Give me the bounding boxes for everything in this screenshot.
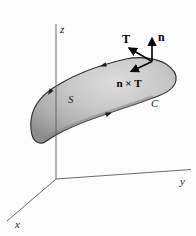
surface-S-label: S bbox=[68, 93, 74, 105]
figure-canvas: z y x S C n T n × T bbox=[0, 0, 196, 236]
tangent-vector-label: T bbox=[122, 32, 130, 46]
x-axis-line bbox=[7, 179, 56, 221]
x-axis-label: x bbox=[14, 218, 20, 230]
z-axis-label: z bbox=[59, 23, 65, 35]
stokes-theorem-figure: z y x S C n T n × T bbox=[0, 0, 196, 236]
curve-C-label: C bbox=[151, 97, 159, 109]
normal-vector-label: n bbox=[158, 30, 165, 44]
n-cross-t-label: n × T bbox=[116, 77, 142, 89]
y-axis-line bbox=[56, 170, 191, 180]
y-axis-label: y bbox=[179, 175, 185, 187]
